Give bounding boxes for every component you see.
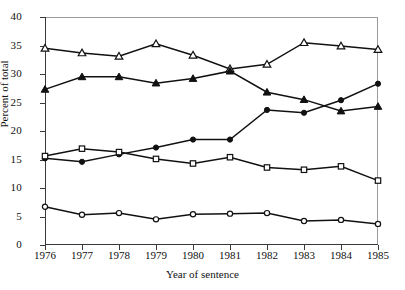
data-point-filled-circle bbox=[301, 110, 306, 115]
y-tick-label: 35 bbox=[0, 40, 22, 51]
y-tick-label: 10 bbox=[0, 182, 22, 193]
data-point-filled-circle bbox=[227, 137, 232, 142]
y-tick-label: 20 bbox=[0, 125, 22, 136]
series-open-square-series bbox=[42, 146, 380, 183]
data-point-open-circle bbox=[116, 210, 121, 215]
series-line bbox=[45, 43, 378, 69]
series-layer bbox=[45, 17, 378, 245]
data-point-filled-circle bbox=[375, 81, 380, 86]
data-point-open-square bbox=[116, 149, 121, 154]
data-point-filled-circle bbox=[79, 159, 84, 164]
data-point-open-square bbox=[264, 165, 269, 170]
series-open-triangle-series bbox=[41, 39, 382, 72]
data-point-filled-circle bbox=[153, 145, 158, 150]
data-point-open-square bbox=[301, 167, 306, 172]
data-point-filled-circle bbox=[338, 98, 343, 103]
x-tick-label: 1985 bbox=[356, 249, 400, 261]
data-point-open-square bbox=[190, 161, 195, 166]
data-point-open-circle bbox=[42, 204, 47, 209]
data-point-open-circle bbox=[264, 210, 269, 215]
data-point-open-square bbox=[42, 153, 47, 158]
series-line bbox=[45, 207, 378, 224]
x-axis-title: Year of sentence bbox=[0, 268, 405, 280]
data-point-open-circle bbox=[79, 212, 84, 217]
data-point-open-circle bbox=[301, 218, 306, 223]
series-filled-triangle-series bbox=[41, 67, 382, 114]
data-point-open-circle bbox=[227, 211, 232, 216]
plot-area bbox=[45, 17, 378, 245]
data-point-open-circle bbox=[190, 212, 195, 217]
data-point-filled-circle bbox=[264, 107, 269, 112]
data-point-open-square bbox=[338, 164, 343, 169]
y-tick-label: 15 bbox=[0, 154, 22, 165]
data-point-open-triangle bbox=[263, 61, 271, 68]
y-tick-label: 5 bbox=[0, 211, 22, 222]
y-tick-label: 25 bbox=[0, 97, 22, 108]
data-point-filled-circle bbox=[190, 137, 195, 142]
chart-figure: Percent of total Year of sentence 051015… bbox=[0, 0, 405, 290]
data-point-open-circle bbox=[375, 221, 380, 226]
data-point-filled-triangle bbox=[263, 88, 271, 95]
data-point-open-circle bbox=[338, 217, 343, 222]
data-point-open-square bbox=[227, 155, 232, 160]
data-point-open-square bbox=[375, 178, 380, 183]
y-tick-label: 30 bbox=[0, 68, 22, 79]
y-tick-label: 40 bbox=[0, 11, 22, 22]
series-filled-circle-series bbox=[42, 81, 380, 164]
data-point-open-circle bbox=[153, 217, 158, 222]
y-tick-label: 0 bbox=[0, 239, 22, 250]
data-point-filled-triangle bbox=[374, 103, 382, 110]
series-line bbox=[45, 149, 378, 181]
data-point-open-square bbox=[153, 156, 158, 161]
data-point-open-square bbox=[79, 146, 84, 151]
series-open-circle-series bbox=[42, 204, 380, 226]
data-point-open-triangle bbox=[152, 40, 160, 47]
